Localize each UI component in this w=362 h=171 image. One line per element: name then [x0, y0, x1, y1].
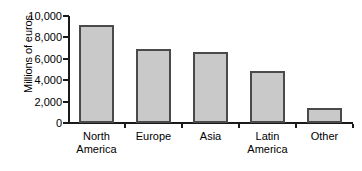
y-axis-tick-label: 4,000: [20, 75, 62, 86]
bar-europe[interactable]: [136, 49, 171, 123]
y-axis-tick-label: 0: [20, 118, 62, 129]
y-axis-tick-label: 8,000: [20, 32, 62, 43]
x-axis-category-label: Europe: [125, 130, 182, 143]
bar-other[interactable]: [307, 108, 342, 124]
x-axis-tick-mark: [124, 124, 126, 128]
y-axis-tick-label: 2,000: [20, 97, 62, 108]
x-axis-tick-mark: [181, 124, 183, 128]
bar-chart: Millions of euros 02,0004,0006,0008,0001…: [0, 0, 362, 171]
x-axis-tick-mark: [295, 124, 297, 128]
y-axis-tick-labels: 02,0004,0006,0008,00010,000: [16, 0, 62, 171]
bar-latin-america[interactable]: [250, 71, 285, 123]
x-axis-category-label: North America: [68, 130, 125, 156]
x-axis-tick-mark: [238, 124, 240, 128]
y-axis-tick-label: 6,000: [20, 54, 62, 65]
plot-area: [68, 16, 353, 123]
x-axis-category-label: Other: [296, 130, 353, 143]
x-axis-category-label: Asia: [182, 130, 239, 143]
bar-north-america[interactable]: [79, 25, 114, 123]
y-axis-tick-label: 10,000: [20, 11, 62, 22]
x-axis-tick-mark: [352, 124, 354, 128]
bar-asia[interactable]: [193, 52, 228, 123]
x-axis-category-label: Latin America: [239, 130, 296, 156]
